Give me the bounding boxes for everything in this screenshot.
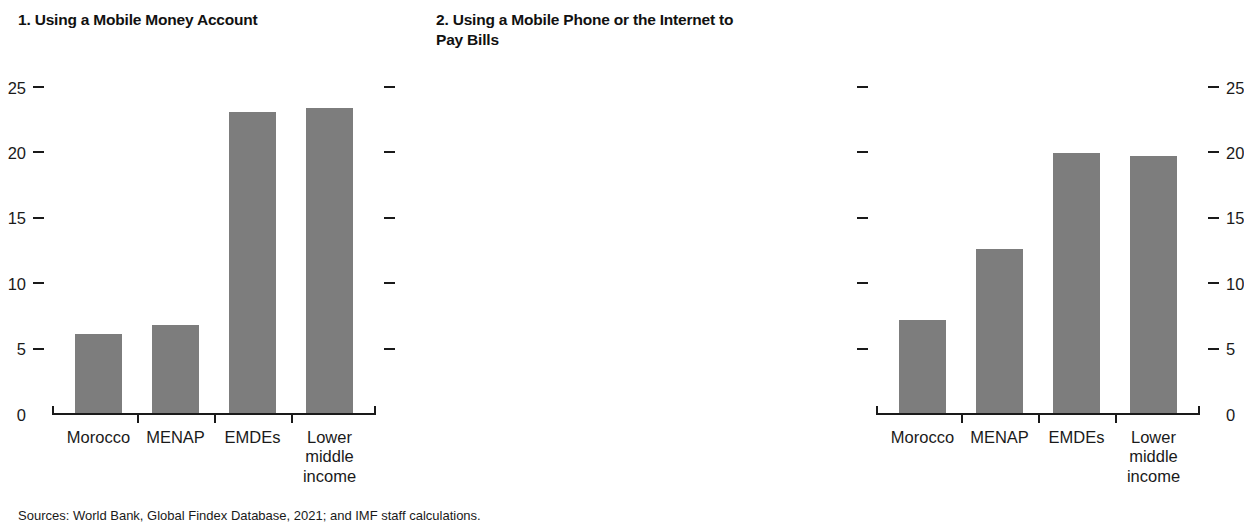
y-tick-label-0: 0 bbox=[17, 407, 26, 424]
y-tick-5 bbox=[33, 348, 44, 350]
y-tick-label-5: 5 bbox=[1226, 341, 1235, 358]
y-tick-label-15: 15 bbox=[8, 210, 26, 227]
y-tick-5 bbox=[857, 348, 868, 350]
x-tick-separator bbox=[1038, 415, 1040, 423]
bar bbox=[1053, 153, 1099, 415]
y-tick-15 bbox=[33, 217, 44, 219]
y-tick-label-25: 25 bbox=[1226, 80, 1244, 97]
x-category-label: EMDEs bbox=[214, 428, 291, 447]
y-tick-15 bbox=[857, 217, 868, 219]
panel-2-bars bbox=[884, 88, 1192, 415]
y-tick-label-20: 20 bbox=[1226, 145, 1244, 162]
y-tick-10 bbox=[857, 282, 868, 284]
chart-panel-2: 2. Using a Mobile Phone or the Internet … bbox=[418, 0, 843, 500]
y-tick-20 bbox=[857, 151, 868, 153]
x-category-label: Lower middle income bbox=[291, 428, 368, 486]
x-category-label: MENAP bbox=[961, 428, 1038, 447]
x-category-label: MENAP bbox=[137, 428, 214, 447]
panel-1-bars bbox=[60, 88, 368, 415]
bar bbox=[1130, 156, 1176, 415]
panel-1-axis-cap-left bbox=[52, 406, 54, 415]
y-tick-20 bbox=[384, 151, 395, 153]
x-tick-separator bbox=[961, 415, 963, 423]
y-tick-label-20: 20 bbox=[8, 145, 26, 162]
y-tick-5 bbox=[1208, 348, 1219, 350]
chart-panel-1: 1. Using a Mobile Money Account 05101520… bbox=[0, 0, 421, 500]
y-tick-label-15: 15 bbox=[1226, 210, 1244, 227]
panel-1-axis-cap-right bbox=[374, 406, 376, 415]
bar bbox=[976, 249, 1022, 415]
y-tick-20 bbox=[1208, 151, 1219, 153]
y-tick-15 bbox=[384, 217, 395, 219]
y-tick-10 bbox=[1208, 282, 1219, 284]
x-category-label: EMDEs bbox=[1038, 428, 1115, 447]
source-note: Sources: World Bank, Global Findex Datab… bbox=[18, 508, 818, 524]
panel-1-plot-area: 0510152025MoroccoMENAPEMDEsLower middle … bbox=[60, 88, 368, 415]
bar bbox=[899, 320, 945, 415]
x-tick-separator bbox=[214, 415, 216, 423]
bar bbox=[75, 334, 121, 415]
x-category-label: Morocco bbox=[60, 428, 137, 447]
y-tick-label-10: 10 bbox=[8, 276, 26, 293]
y-tick-25 bbox=[33, 86, 44, 88]
panel-2-title: 2. Using a Mobile Phone or the Internet … bbox=[436, 10, 826, 51]
bar bbox=[306, 108, 352, 415]
panel-1-title: 1. Using a Mobile Money Account bbox=[18, 10, 398, 30]
bar bbox=[152, 325, 198, 415]
bar bbox=[229, 112, 275, 415]
x-tick-separator bbox=[1115, 415, 1117, 423]
y-tick-25 bbox=[857, 86, 868, 88]
x-category-label: Lower middle income bbox=[1115, 428, 1192, 486]
y-tick-label-5: 5 bbox=[17, 341, 26, 358]
y-tick-20 bbox=[33, 151, 44, 153]
y-tick-5 bbox=[384, 348, 395, 350]
panel-2-plot-area: 0510152025MoroccoMENAPEMDEsLower middle … bbox=[884, 88, 1192, 415]
y-tick-15 bbox=[1208, 217, 1219, 219]
y-tick-10 bbox=[384, 282, 395, 284]
y-tick-label-25: 25 bbox=[8, 80, 26, 97]
panel-2-axis-cap-left bbox=[876, 406, 878, 415]
panel-2-axis-cap-right bbox=[1198, 406, 1200, 415]
y-tick-25 bbox=[384, 86, 395, 88]
y-tick-label-0: 0 bbox=[1226, 407, 1235, 424]
y-tick-10 bbox=[33, 282, 44, 284]
x-category-label: Morocco bbox=[884, 428, 961, 447]
y-tick-25 bbox=[1208, 86, 1219, 88]
x-tick-separator bbox=[291, 415, 293, 423]
x-tick-separator bbox=[137, 415, 139, 423]
y-tick-label-10: 10 bbox=[1226, 276, 1244, 293]
